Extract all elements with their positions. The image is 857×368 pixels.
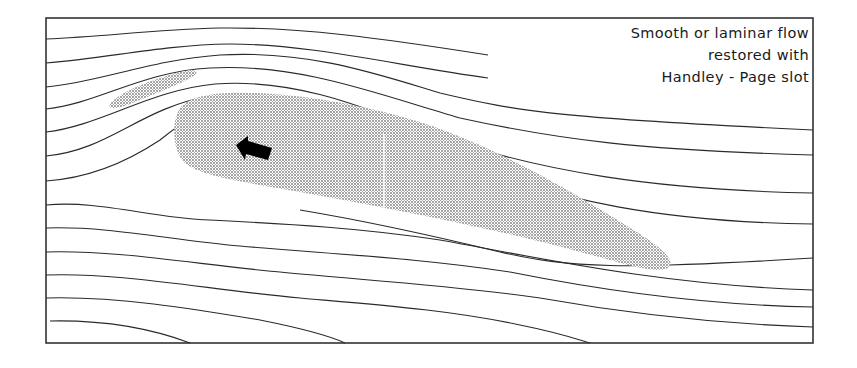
caption: Smooth or laminar flow restored with Han…: [631, 22, 809, 88]
streamline-12: [46, 298, 345, 343]
caption-line-3: Handley - Page slot: [631, 66, 809, 88]
streamline-8: [46, 204, 813, 290]
streamline-9: [46, 228, 813, 307]
streamline-1: [46, 28, 488, 55]
main-wing: [174, 93, 670, 270]
streamline-2: [46, 44, 488, 78]
caption-line-2: restored with: [631, 44, 809, 66]
caption-line-1: Smooth or laminar flow: [631, 22, 809, 44]
streamline-11: [46, 275, 590, 343]
streamline-10: [46, 252, 813, 327]
streamline-13: [50, 321, 190, 343]
